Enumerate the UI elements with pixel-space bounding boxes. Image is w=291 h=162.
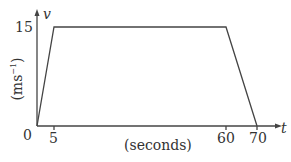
y-axis-arrow-icon	[35, 9, 40, 16]
origin-label: 0	[23, 128, 32, 142]
x-tick-60: 60	[217, 131, 235, 145]
y-unit-text: (ms	[9, 75, 25, 101]
y-axis-name: v	[43, 7, 51, 21]
y-tick-15: 15	[15, 20, 33, 34]
x-tick-70: 70	[249, 131, 267, 145]
y-axis-unit: (ms−1)	[10, 54, 24, 104]
y-unit-exponent: −1	[9, 63, 18, 75]
x-tick-5: 5	[49, 131, 58, 145]
x-axis-name: t	[281, 121, 287, 135]
velocity-line	[37, 27, 257, 126]
x-axis-unit: (seconds)	[124, 138, 192, 152]
y-unit-close: )	[9, 57, 25, 62]
